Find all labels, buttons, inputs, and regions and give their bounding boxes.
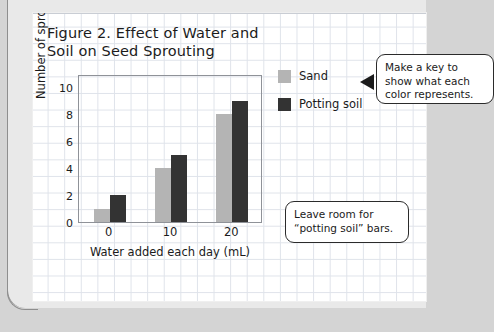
chart-legend: Sand Potting soil (278, 69, 362, 125)
y-axis-ticks: 0246810 (53, 75, 77, 223)
legend-swatch-potting-soil (278, 98, 291, 111)
bar-potting-soil-20 (232, 101, 248, 222)
y-tick-label: 6 (66, 136, 73, 149)
y-tick-label: 0 (66, 217, 73, 230)
y-tick-label: 2 (66, 190, 73, 203)
legend-label-sand: Sand (299, 69, 328, 83)
plot-area (78, 75, 262, 223)
notebook-page: Figure 2. Effect of Water and Soil on Se… (7, 0, 426, 308)
callout-leave-room: Leave room for “potting soil” bars. (285, 201, 409, 243)
bar-sand-0 (94, 209, 110, 222)
x-tick-label: 20 (224, 225, 239, 239)
bar-sand-20 (216, 114, 232, 222)
legend-swatch-sand (278, 70, 291, 83)
legend-label-potting-soil: Potting soil (299, 97, 362, 111)
legend-item-potting-soil: Potting soil (278, 97, 362, 111)
x-axis-ticks: 01020 (78, 225, 262, 241)
x-axis-title: Water added each day (mL) (78, 245, 262, 259)
callout-make-key: Make a key to show what each color repre… (376, 54, 494, 104)
y-tick-label: 10 (59, 82, 73, 95)
bar-layer (79, 76, 261, 222)
y-tick-label: 4 (66, 163, 73, 176)
graph-paper-card: Figure 2. Effect of Water and Soil on Se… (33, 13, 426, 301)
y-tick-label: 8 (66, 109, 73, 122)
bar-sand-10 (155, 168, 171, 222)
y-axis-title: Number of sprouting seeds (34, 13, 48, 99)
figure-title: Figure 2. Effect of Water and Soil on Se… (47, 24, 297, 60)
x-tick-label: 10 (163, 225, 178, 239)
legend-item-sand: Sand (278, 69, 362, 83)
bar-potting-soil-10 (171, 155, 187, 222)
bar-potting-soil-0 (110, 195, 126, 222)
x-tick-label: 0 (105, 225, 112, 239)
callout-pointer-icon (360, 74, 374, 90)
